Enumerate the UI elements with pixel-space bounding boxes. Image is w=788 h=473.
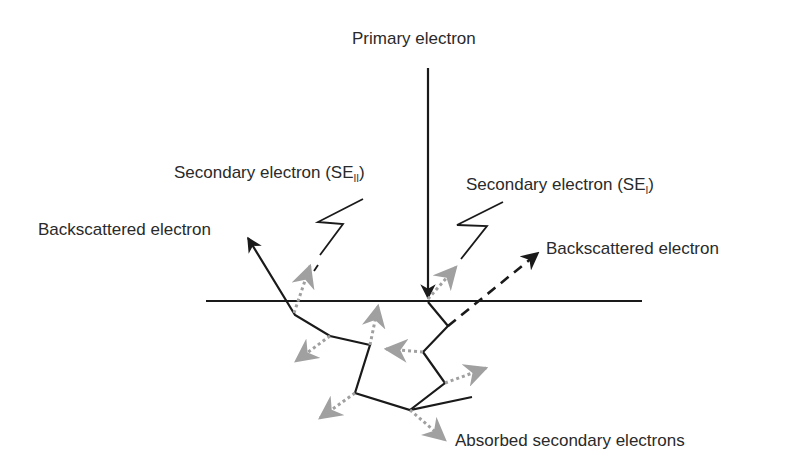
se2-squiggle [318, 199, 363, 255]
absorbed-secondary-label: Absorbed secondary electrons [455, 432, 685, 449]
backscattered-right-label: Backscattered electron [546, 240, 719, 257]
right-scatter-path [410, 302, 448, 410]
secondary-electron-arrows [294, 266, 486, 440]
se2-label-close: ) [359, 163, 365, 182]
se1-label: Secondary electron (SEI) [466, 176, 654, 196]
backscattered-left-label: Backscattered electron [38, 221, 211, 238]
se1-squiggle [457, 202, 503, 259]
se1-label-text: Secondary electron (SE [466, 175, 646, 194]
se2-label: Secondary electron (SEII) [174, 164, 365, 184]
right-backscatter-arrow [448, 253, 538, 326]
se2-dash [314, 265, 318, 271]
se2-label-text: Secondary electron (SE [174, 163, 354, 182]
primary-electron-label: Primary electron [352, 30, 476, 47]
se1-label-close: ) [648, 175, 654, 194]
electron-interaction-diagram: Primary electron Secondary electron (SEI… [0, 0, 788, 473]
left-scatter-path [248, 238, 472, 410]
